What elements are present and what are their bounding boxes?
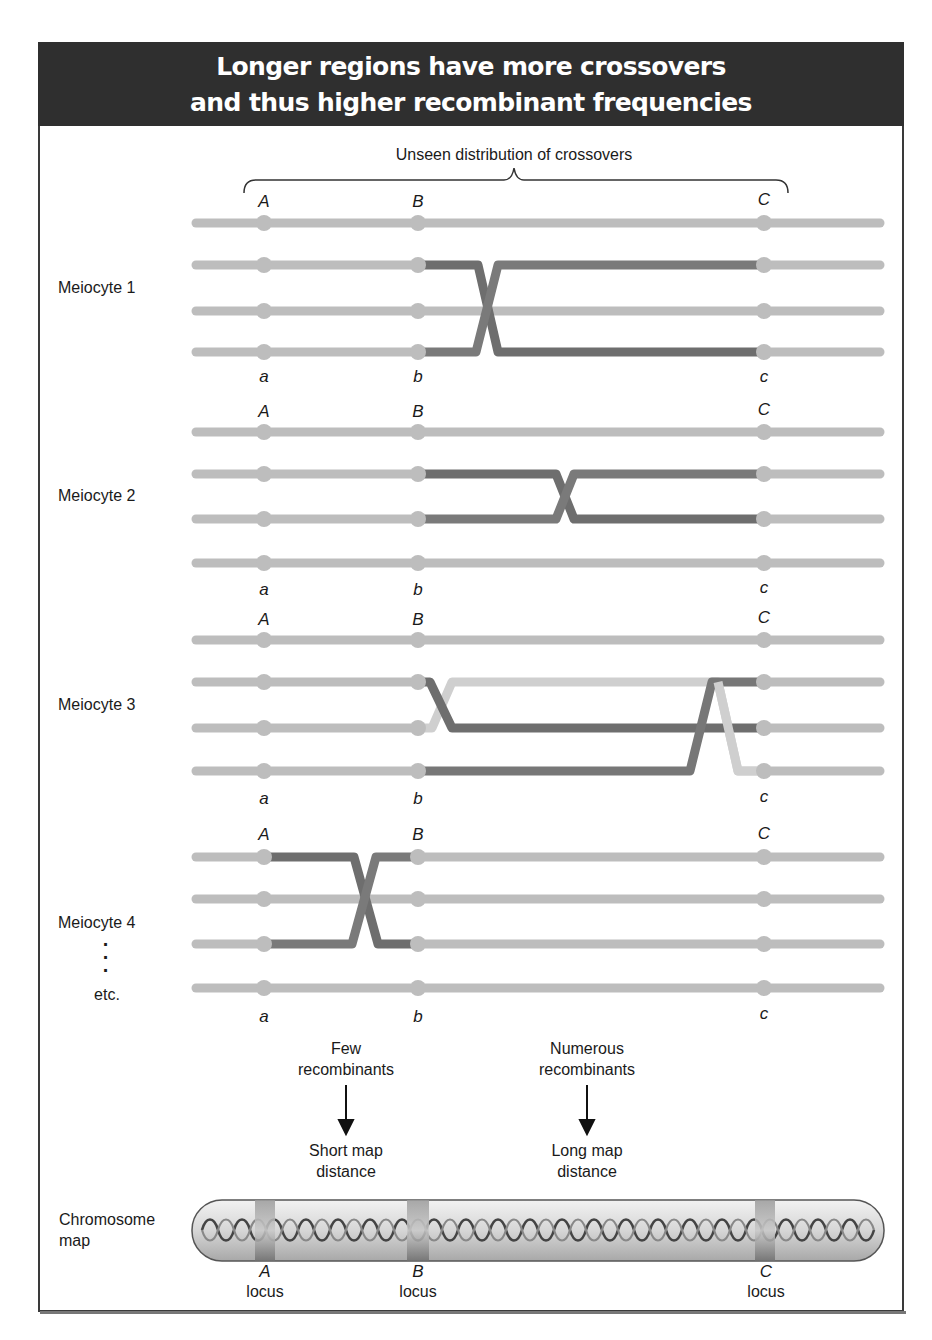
short-map-distance-label: Short map distance — [309, 1140, 383, 1182]
allele-A-m4: A — [258, 825, 269, 845]
allele-C-m2: C — [758, 400, 770, 420]
long-map-distance-label: Long map distance — [551, 1140, 622, 1182]
meiocyte-4-strands — [196, 857, 880, 988]
arrow-down-icon-few — [339, 1085, 353, 1134]
allele-C-m4: C — [758, 824, 770, 844]
allele-c-m1: c — [760, 367, 769, 387]
locus-band-b — [407, 1200, 429, 1261]
meiocyte-1-strands — [196, 223, 880, 352]
chromosome-map-label: Chromosome map — [59, 1209, 155, 1251]
allele-A-m2: A — [258, 402, 269, 422]
allele-C-m3: C — [758, 608, 770, 628]
allele-B-m4: B — [412, 825, 423, 845]
allele-b-m3: b — [413, 789, 422, 809]
allele-B-m1: B — [412, 192, 423, 212]
crossover-diagram — [0, 0, 932, 1340]
meiocyte-4-label: Meiocyte 4 — [58, 914, 135, 932]
meiocyte-2-strands — [196, 432, 880, 563]
allele-A-m1: A — [258, 192, 269, 212]
meiocyte-2-label: Meiocyte 2 — [58, 487, 135, 505]
allele-a-m2: a — [259, 580, 268, 600]
allele-c-m2: c — [760, 578, 769, 598]
ellipsis-dots-icon: ··· — [103, 938, 110, 977]
allele-B-m2: B — [412, 402, 423, 422]
locus-c-label: C locus — [747, 1262, 784, 1302]
few-recombinants-label: Few recombinants — [298, 1038, 394, 1080]
allele-B-m3: B — [412, 610, 423, 630]
allele-b-m2: b — [413, 580, 422, 600]
numerous-recombinants-label: Numerous recombinants — [539, 1038, 635, 1080]
allele-b-m4: b — [413, 1007, 422, 1027]
allele-A-m3: A — [258, 610, 269, 630]
locus-beads — [256, 215, 772, 996]
brace-icon — [244, 168, 788, 193]
allele-a-m3: a — [259, 789, 268, 809]
locus-a-label: A locus — [246, 1262, 283, 1302]
locus-band-c — [755, 1200, 775, 1261]
meiocyte-3-label: Meiocyte 3 — [58, 696, 135, 714]
allele-a-m4: a — [259, 1007, 268, 1027]
arrow-down-icon-numerous — [580, 1085, 594, 1134]
chromosome-map-bar — [192, 1200, 884, 1261]
locus-b-label: B locus — [399, 1262, 436, 1302]
meiocyte-3-strands — [196, 640, 880, 771]
allele-c-m4: c — [760, 1004, 769, 1024]
allele-c-m3: c — [760, 787, 769, 807]
allele-a-m1: a — [259, 367, 268, 387]
etc-label: etc. — [94, 986, 120, 1004]
meiocyte-1-label: Meiocyte 1 — [58, 279, 135, 297]
locus-band-a — [255, 1200, 275, 1261]
allele-b-m1: b — [413, 367, 422, 387]
allele-C-m1: C — [758, 190, 770, 210]
